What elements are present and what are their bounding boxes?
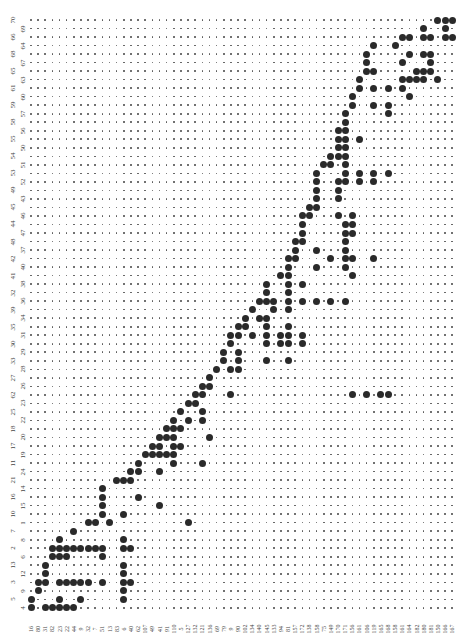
absence-dot	[273, 28, 275, 30]
absence-dot	[80, 462, 82, 464]
absence-dot	[387, 590, 389, 592]
absence-dot	[66, 369, 68, 371]
absence-dot	[423, 582, 425, 584]
row-label: 55	[9, 132, 17, 146]
absence-dot	[323, 530, 325, 532]
absence-dot	[216, 334, 218, 336]
absence-dot	[352, 437, 354, 439]
row-label: 10	[9, 507, 17, 521]
absence-dot	[416, 275, 418, 277]
absence-dot	[187, 411, 189, 413]
absence-dot	[280, 173, 282, 175]
absence-dot	[94, 582, 96, 584]
absence-dot	[401, 411, 403, 413]
absence-dot	[37, 121, 39, 123]
absence-dot	[180, 573, 182, 575]
absence-dot	[330, 607, 332, 609]
absence-dot	[323, 564, 325, 566]
absence-dot	[73, 564, 75, 566]
absence-dot	[230, 547, 232, 549]
absence-dot	[144, 79, 146, 81]
absence-dot	[66, 462, 68, 464]
absence-dot	[423, 360, 425, 362]
absence-dot	[266, 556, 268, 558]
absence-dot	[94, 79, 96, 81]
absence-dot	[166, 28, 168, 30]
absence-dot	[380, 411, 382, 413]
absence-dot	[173, 283, 175, 285]
absence-dot	[152, 369, 154, 371]
absence-dot	[180, 181, 182, 183]
absence-dot	[116, 530, 118, 532]
absence-dot	[44, 224, 46, 226]
absence-dot	[252, 479, 254, 481]
presence-dot	[277, 340, 284, 347]
absence-dot	[352, 420, 354, 422]
absence-dot	[273, 62, 275, 64]
column-label: 80	[35, 621, 41, 637]
absence-dot	[66, 403, 68, 405]
absence-dot	[302, 104, 304, 106]
absence-dot	[287, 530, 289, 532]
absence-dot	[187, 113, 189, 115]
absence-dot	[380, 309, 382, 311]
absence-dot	[202, 104, 204, 106]
absence-dot	[344, 454, 346, 456]
absence-dot	[73, 28, 75, 30]
absence-dot	[73, 104, 75, 106]
absence-dot	[173, 513, 175, 515]
row-label: 23	[19, 396, 27, 410]
absence-dot	[116, 45, 118, 47]
absence-dot	[66, 496, 68, 498]
absence-dot	[180, 241, 182, 243]
absence-dot	[123, 505, 125, 507]
absence-dot	[30, 539, 32, 541]
absence-dot	[194, 258, 196, 260]
absence-dot	[109, 62, 111, 64]
absence-dot	[337, 582, 339, 584]
absence-dot	[244, 590, 246, 592]
absence-dot	[380, 599, 382, 601]
absence-dot	[87, 113, 89, 115]
absence-dot	[323, 488, 325, 490]
absence-dot	[387, 130, 389, 132]
absence-dot	[294, 394, 296, 396]
absence-dot	[394, 79, 396, 81]
absence-dot	[123, 351, 125, 353]
absence-dot	[302, 207, 304, 209]
absence-dot	[352, 428, 354, 430]
absence-dot	[266, 79, 268, 81]
absence-dot	[266, 121, 268, 123]
absence-dot	[37, 198, 39, 200]
absence-dot	[359, 530, 361, 532]
absence-dot	[437, 437, 439, 439]
absence-dot	[102, 181, 104, 183]
absence-dot	[194, 275, 196, 277]
absence-dot	[323, 326, 325, 328]
absence-dot	[394, 156, 396, 158]
absence-dot	[237, 156, 239, 158]
absence-dot	[444, 403, 446, 405]
presence-dot	[206, 374, 213, 381]
absence-dot	[359, 334, 361, 336]
absence-dot	[280, 232, 282, 234]
absence-dot	[137, 104, 139, 106]
absence-dot	[437, 420, 439, 422]
absence-dot	[316, 258, 318, 260]
absence-dot	[244, 428, 246, 430]
absence-dot	[394, 198, 396, 200]
absence-dot	[380, 547, 382, 549]
presence-dot	[99, 485, 106, 492]
absence-dot	[359, 488, 361, 490]
absence-dot	[216, 96, 218, 98]
absence-dot	[30, 283, 32, 285]
absence-dot	[237, 513, 239, 515]
absence-dot	[380, 317, 382, 319]
absence-dot	[37, 454, 39, 456]
absence-dot	[401, 275, 403, 277]
absence-dot	[416, 505, 418, 507]
absence-dot	[94, 181, 96, 183]
absence-dot	[194, 164, 196, 166]
absence-dot	[302, 275, 304, 277]
absence-dot	[316, 513, 318, 515]
